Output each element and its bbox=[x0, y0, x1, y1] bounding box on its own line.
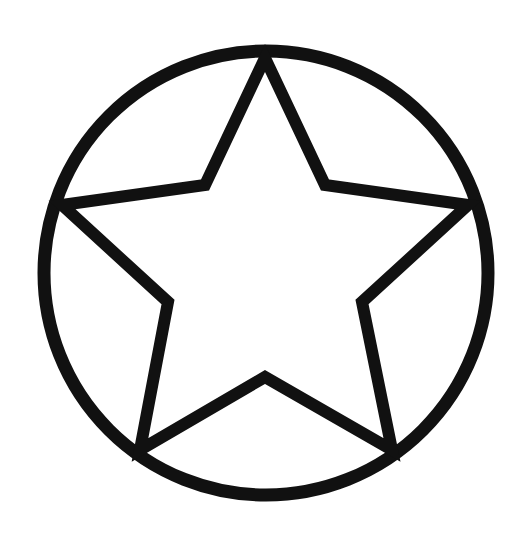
star-in-circle-diagram bbox=[0, 0, 528, 541]
